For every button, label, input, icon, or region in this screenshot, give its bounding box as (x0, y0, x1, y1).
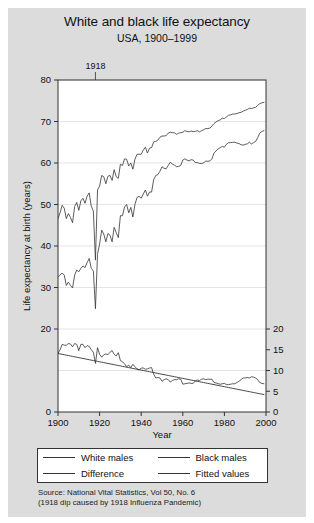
legend-item-white-males[interactable]: White males (38, 449, 153, 466)
legend-line-icon (43, 457, 75, 458)
x-tick-label: 1940 (131, 417, 152, 428)
legend-line-icon (158, 457, 190, 458)
legend-line-icon (43, 473, 75, 474)
y-tick-label: 70 (40, 116, 51, 127)
y-tick-label: 0 (46, 406, 51, 417)
legend-label: Black males (196, 452, 247, 463)
y2-tick-label: 5 (273, 386, 278, 397)
legend-item-difference[interactable]: Difference (38, 466, 153, 483)
y-axis-title: Life expectancy at birth (years) (21, 181, 32, 311)
plot-area: 0203040506070800510152019001920194019601… (8, 8, 306, 517)
x-axis-title: Year (152, 429, 171, 440)
y2-tick-label: 10 (273, 365, 284, 376)
y-tick-label: 80 (40, 74, 51, 85)
source-line-2: (1918 dip caused by 1918 Influenza Pande… (38, 498, 288, 508)
legend-item-fitted-values[interactable]: Fitted values (153, 466, 268, 483)
x-tick-label: 2000 (255, 417, 276, 428)
x-tick-label: 1980 (214, 417, 235, 428)
x-tick-label: 1920 (89, 417, 110, 428)
legend-line-icon (158, 473, 190, 474)
x-tick-label: 1900 (47, 417, 68, 428)
1918-marker-label: 1918 (85, 61, 105, 71)
chart-svg: 0203040506070800510152019001920194019601… (8, 8, 306, 517)
y-tick-label: 60 (40, 157, 51, 168)
y-tick-label: 50 (40, 199, 51, 210)
source-note: Source: National Vital Statistics, Vol 5… (38, 488, 288, 508)
legend-item-black-males[interactable]: Black males (153, 449, 268, 466)
legend-label: Difference (81, 468, 124, 479)
figure-panel: White and black life expectancy USA, 190… (8, 8, 306, 517)
source-line-1: Source: National Vital Statistics, Vol 5… (38, 488, 288, 498)
y2-tick-label: 20 (273, 323, 284, 334)
x-tick-label: 1960 (172, 417, 193, 428)
y-tick-label: 20 (40, 323, 51, 334)
y2-tick-label: 15 (273, 344, 284, 355)
y2-tick-label: 0 (273, 406, 278, 417)
legend: White males Black males Difference Fitte… (37, 448, 268, 483)
legend-label: Fitted values (196, 468, 250, 479)
legend-label: White males (81, 452, 133, 463)
y-tick-label: 30 (40, 282, 51, 293)
y-tick-label: 40 (40, 240, 51, 251)
